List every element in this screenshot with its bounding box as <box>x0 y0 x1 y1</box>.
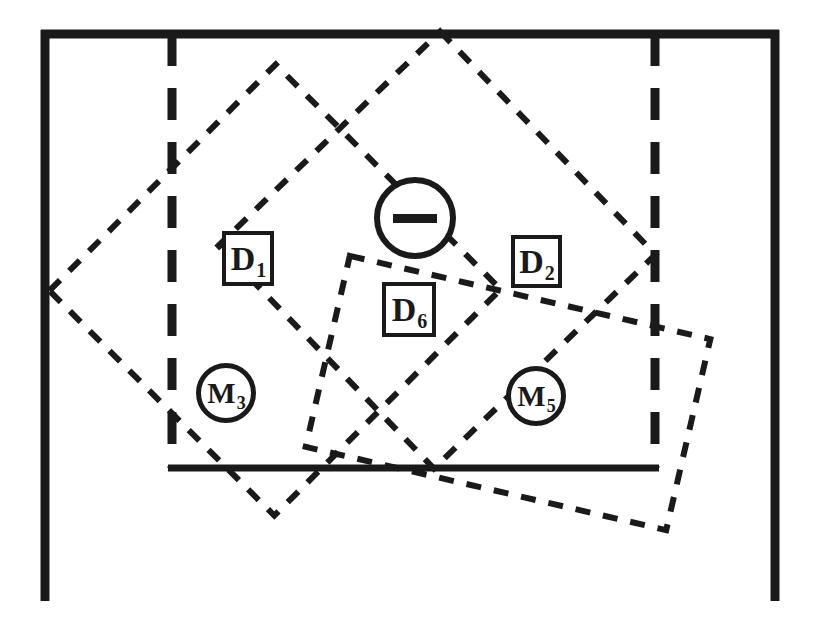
label-m5-subscript: 5 <box>547 396 556 416</box>
label-m5[interactable]: M5 <box>506 366 566 426</box>
label-m3-subscript: 3 <box>237 393 246 413</box>
label-m3[interactable]: M3 <box>196 363 256 423</box>
label-d2-subscript: 2 <box>545 262 555 284</box>
label-d1-subscript: 1 <box>256 259 266 281</box>
minus-circle-node[interactable] <box>374 177 456 259</box>
label-d2[interactable]: D2 <box>511 235 562 288</box>
label-m3-text: M3 <box>207 378 244 408</box>
diagram-canvas-root: D1 D2 D6 M3 M5 <box>0 0 813 635</box>
label-d1[interactable]: D1 <box>222 231 274 286</box>
label-d2-text: D2 <box>519 245 554 279</box>
label-d1-text: D1 <box>231 242 266 276</box>
label-d6[interactable]: D6 <box>382 282 436 337</box>
label-m5-text: M5 <box>517 381 554 411</box>
label-d6-subscript: 6 <box>417 310 427 332</box>
minus-icon <box>393 214 437 223</box>
label-d6-text: D6 <box>392 293 427 327</box>
